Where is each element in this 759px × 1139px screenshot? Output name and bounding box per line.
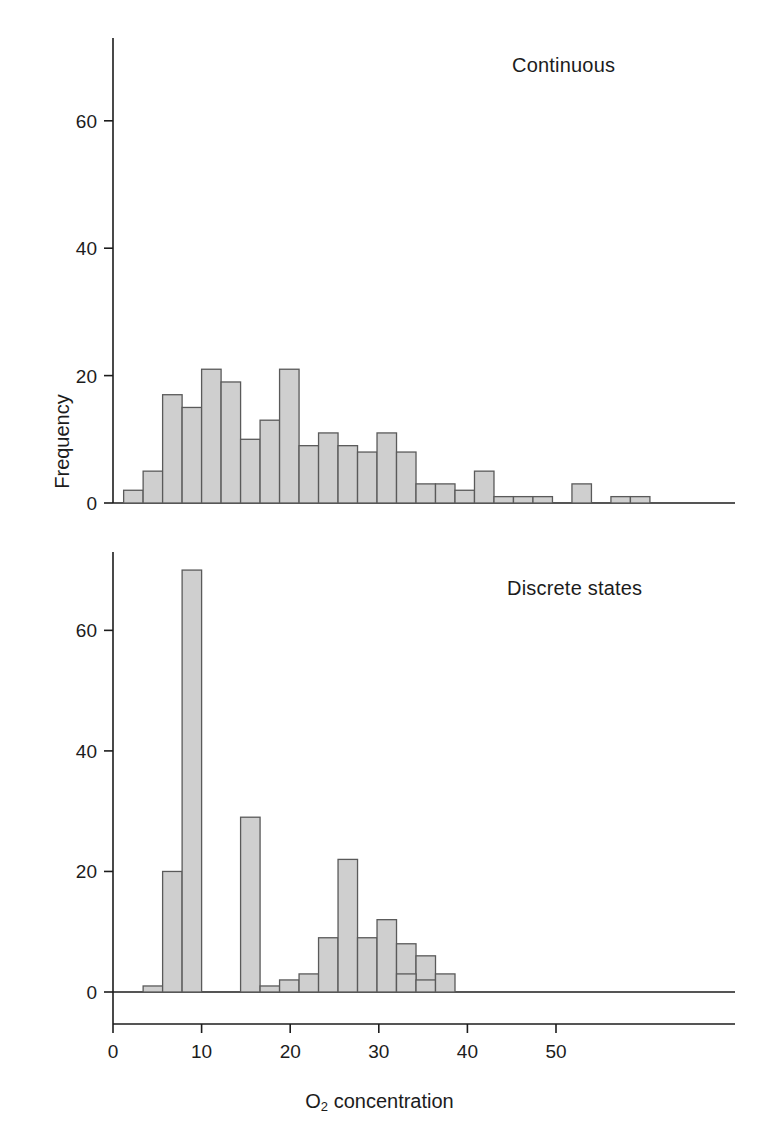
- histogram-bar: [338, 446, 357, 503]
- histogram-bar: [533, 497, 552, 503]
- y-axis-tick-label: 20: [76, 366, 97, 387]
- discrete-states-plot: 020406001020304050: [0, 540, 759, 1060]
- histogram-bar: [397, 974, 416, 992]
- histogram-bar: [436, 974, 455, 992]
- histogram-bar: [319, 433, 338, 503]
- histogram-bar: [221, 382, 240, 503]
- continuous-plot: 0204060: [0, 0, 759, 540]
- histogram-bar: [358, 938, 377, 992]
- x-axis-tick-label: 20: [280, 1041, 301, 1060]
- panel-continuous: 0204060 Continuous: [0, 0, 759, 540]
- x-axis-title: O2 concentration: [0, 1090, 759, 1114]
- histogram-bar: [202, 369, 221, 503]
- histogram-bar: [397, 452, 416, 503]
- histogram-bar: [494, 497, 513, 503]
- x-axis-tick-label: 30: [368, 1041, 389, 1060]
- histogram-bar: [299, 446, 318, 503]
- panel-label-discrete-states: Discrete states: [507, 577, 642, 600]
- histogram-bar: [416, 980, 435, 992]
- histogram-bar: [416, 484, 435, 503]
- histogram-bar: [513, 497, 532, 503]
- histogram-bar: [377, 433, 396, 503]
- histogram-bar: [182, 570, 201, 992]
- histogram-bar: [241, 817, 260, 992]
- histogram-bar: [143, 986, 162, 992]
- histogram-bar: [163, 395, 182, 503]
- y-axis-tick-label: 20: [76, 861, 97, 882]
- y-axis-tick-label: 40: [76, 238, 97, 259]
- histogram-bar: [455, 490, 474, 503]
- x-axis-tick-label: 40: [457, 1041, 478, 1060]
- histogram-bar: [182, 407, 201, 503]
- histogram-bar: [436, 484, 455, 503]
- panel-discrete-states: 020406001020304050: [0, 540, 759, 1060]
- y-axis-tick-label: 0: [86, 493, 97, 514]
- x-axis-title-suffix: concentration: [328, 1090, 454, 1112]
- x-axis-tick-label: 10: [191, 1041, 212, 1060]
- x-axis-title-subscript: 2: [321, 1099, 328, 1114]
- histogram-bar: [241, 439, 260, 503]
- y-axis-tick-label: 60: [76, 111, 97, 132]
- x-axis-tick-label: 0: [108, 1041, 119, 1060]
- histogram-bar: [338, 859, 357, 992]
- histogram-bar: [474, 471, 493, 503]
- histogram-bar: [260, 420, 279, 503]
- y-axis-tick-label: 60: [76, 620, 97, 641]
- x-axis-title-prefix: O: [305, 1090, 321, 1112]
- y-axis-title: Frequency: [51, 362, 74, 522]
- histogram-bar: [299, 974, 318, 992]
- histogram-bar: [572, 484, 591, 503]
- histogram-bar: [124, 490, 143, 503]
- histogram-bar: [611, 497, 630, 503]
- histogram-bar: [630, 497, 649, 503]
- x-axis-tick-label: 50: [545, 1041, 566, 1060]
- figure-container: 0204060 Continuous 020406001020304050 Di…: [0, 0, 759, 1139]
- y-axis-tick-label: 0: [86, 982, 97, 1003]
- y-axis-tick-label: 40: [76, 741, 97, 762]
- histogram-bar: [280, 980, 299, 992]
- histogram-bar: [319, 938, 338, 992]
- histogram-bar: [260, 986, 279, 992]
- histogram-bar: [377, 920, 396, 992]
- histogram-bar: [163, 871, 182, 992]
- histogram-bar: [358, 452, 377, 503]
- histogram-bar: [143, 471, 162, 503]
- histogram-bar: [280, 369, 299, 503]
- panel-label-continuous: Continuous: [512, 54, 615, 77]
